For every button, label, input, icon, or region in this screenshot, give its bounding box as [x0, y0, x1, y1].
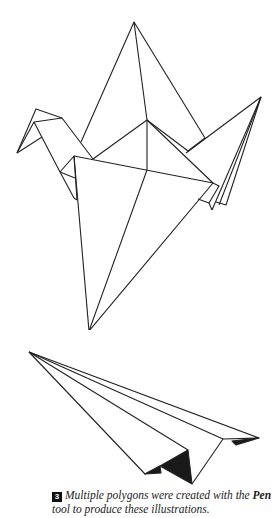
origami-crane-illustration [0, 0, 279, 330]
caption-text-before: Multiple polygons were created with the [65, 489, 253, 501]
figure-caption: 3Multiple polygons were created with the… [52, 488, 277, 516]
caption-text-after: tool to produce these illustrations. [52, 503, 210, 515]
caption-tool-name: Pen [253, 489, 272, 501]
figure-number-badge: 3 [52, 492, 62, 502]
paper-airplane-illustration [0, 340, 279, 500]
figure: 3Multiple polygons were created with the… [0, 0, 279, 518]
